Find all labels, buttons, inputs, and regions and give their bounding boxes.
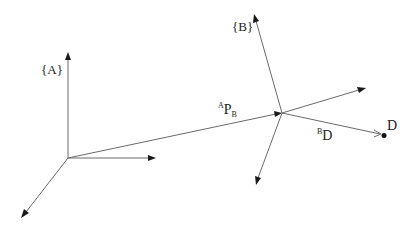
arrowhead-icon — [253, 14, 259, 23]
frame-transform-diagram — [0, 0, 411, 229]
frame-a-label: {A} — [41, 63, 63, 76]
point-d-label: D — [387, 119, 397, 133]
vector-b-d-label: BD — [317, 128, 332, 143]
point-d-dot — [382, 133, 387, 138]
vector-b-d-main: D — [322, 128, 332, 143]
vector-a-p-b-label: APB — [218, 102, 237, 119]
vector-a-p-b — [68, 111, 282, 158]
frame-b-y-axis — [282, 90, 359, 113]
frame-b-z-axis — [256, 21, 282, 113]
frame-a-x-axis — [26, 158, 68, 212]
arrowhead-icon — [65, 52, 71, 60]
arrowhead-icon — [255, 176, 261, 185]
frame-b-x-axis — [258, 113, 282, 178]
frame-b-label: {B} — [232, 20, 253, 33]
arrowhead-icon — [148, 155, 156, 161]
vector-a-p-b-main: P — [224, 102, 232, 117]
frame-b-axes — [253, 14, 366, 185]
arrowhead-icon — [357, 87, 366, 93]
vector-a-p-b-line — [68, 114, 276, 158]
vector-a-p-b-subscript: B — [232, 110, 237, 119]
